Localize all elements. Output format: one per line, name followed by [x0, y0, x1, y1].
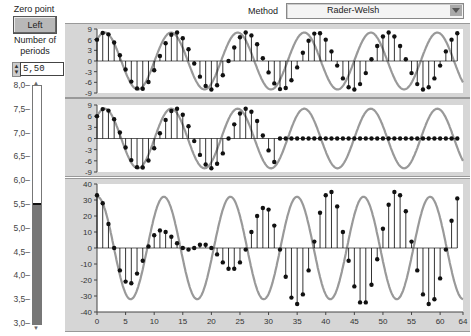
- svg-text:40: 40: [321, 317, 330, 326]
- periods-input[interactable]: 5,50: [20, 62, 64, 76]
- slider-thumb[interactable]: [33, 203, 41, 205]
- svg-text:20: 20: [207, 317, 216, 326]
- svg-text:60: 60: [436, 317, 445, 326]
- slider-up-arrow-icon[interactable]: ▲: [33, 80, 39, 86]
- svg-text:-9: -9: [85, 89, 93, 97]
- svg-text:40: 40: [83, 180, 92, 189]
- svg-text:20: 20: [83, 212, 92, 221]
- svg-text:-3: -3: [85, 146, 93, 155]
- svg-text:-30: -30: [80, 292, 92, 301]
- svg-text:-6: -6: [85, 78, 93, 87]
- slider-tick-label: 7,5–: [0, 104, 30, 114]
- slider-tick-label: 3,0–: [0, 318, 30, 328]
- zero-point-label: Zero point: [12, 4, 56, 14]
- svg-text:25: 25: [236, 317, 245, 326]
- svg-text:10: 10: [150, 317, 159, 326]
- slider-tick-label: 4,0–: [0, 270, 30, 280]
- svg-text:0: 0: [88, 244, 93, 253]
- result-graph-panel: 403020100-10-20-30-400510152025303540455…: [65, 178, 470, 332]
- svg-text:0: 0: [88, 135, 93, 144]
- svg-text:-3: -3: [85, 68, 93, 77]
- decrement-arrow-icon[interactable]: ▼: [13, 69, 20, 75]
- svg-text:30: 30: [264, 317, 273, 326]
- half-zeroed-graph-panel: 9630-3-6-9: [65, 98, 470, 177]
- svg-text:-6: -6: [85, 157, 93, 166]
- periods-label-line2: periods: [10, 46, 60, 57]
- svg-text:30: 30: [83, 196, 92, 205]
- svg-text:9: 9: [88, 25, 93, 34]
- svg-text:35: 35: [293, 317, 302, 326]
- method-value: Rader-Welsh: [327, 5, 379, 15]
- slider-tick-label: 7,0–: [0, 128, 30, 138]
- signal-graph-panel: 9630-3-6-9: [65, 23, 470, 98]
- svg-text:5: 5: [123, 317, 128, 326]
- svg-text:45: 45: [350, 317, 359, 326]
- slider-tick-label: 3,5–: [0, 294, 30, 304]
- svg-text:6: 6: [88, 112, 93, 121]
- svg-text:0: 0: [88, 57, 93, 66]
- periods-slider[interactable]: [32, 85, 42, 325]
- svg-text:-20: -20: [80, 276, 92, 285]
- svg-text:9: 9: [88, 101, 93, 110]
- slider-tick-label: 6,5–: [0, 151, 30, 161]
- slider-tick-label: 4,5–: [0, 247, 30, 257]
- slider-tick-label: 5,0–: [0, 223, 30, 233]
- svg-text:64: 64: [459, 317, 468, 326]
- zero-point-left-button[interactable]: Left: [13, 16, 57, 34]
- slider-fill: [33, 205, 41, 324]
- svg-text:15: 15: [178, 317, 187, 326]
- periods-label-line1: Number of: [10, 35, 60, 46]
- svg-text:-9: -9: [85, 168, 93, 176]
- svg-text:55: 55: [407, 317, 416, 326]
- svg-text:-40: -40: [80, 308, 92, 317]
- svg-text:50: 50: [378, 317, 387, 326]
- svg-text:3: 3: [88, 46, 93, 55]
- svg-text:6: 6: [88, 36, 93, 45]
- svg-text:3: 3: [88, 123, 93, 132]
- svg-text:10: 10: [83, 228, 92, 237]
- slider-tick-label: 5,5–: [0, 199, 30, 209]
- number-of-periods-label: Number of periods: [10, 35, 60, 57]
- dropdown-arrow-icon[interactable]: [450, 5, 462, 16]
- method-label: Method: [248, 6, 278, 16]
- svg-text:0: 0: [95, 317, 100, 326]
- slider-tick-label: 6,0–: [0, 175, 30, 185]
- slider-tick-label: 8,0–: [0, 80, 30, 90]
- svg-text:-10: -10: [80, 260, 92, 269]
- slider-down-arrow-icon[interactable]: ▼: [33, 325, 39, 331]
- method-dropdown[interactable]: Rader-Welsh: [286, 3, 464, 19]
